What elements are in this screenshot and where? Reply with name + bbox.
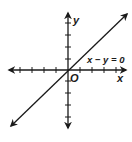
x-axis-label: x (116, 72, 124, 84)
y-axis-label: y (72, 14, 80, 26)
origin-label: O (70, 72, 79, 84)
equation-label: x − y = 0 (86, 54, 125, 65)
coordinate-graph: y x O x − y = 0 (0, 0, 132, 142)
